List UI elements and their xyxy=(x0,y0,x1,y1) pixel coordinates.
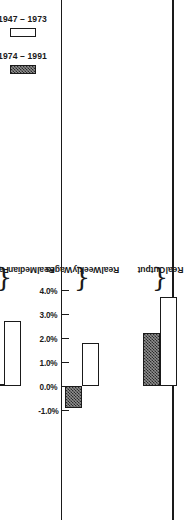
hatched-swatch-icon xyxy=(10,65,36,74)
axis-tick-label: 2.0% xyxy=(34,335,64,344)
category-label-line: Real xyxy=(38,265,56,274)
hollow-swatch-icon xyxy=(10,28,36,37)
legend-label: 1947 – 1973 xyxy=(0,14,47,24)
category-label-line: Median xyxy=(9,265,38,274)
plot-area: 4.0%3.0%2.0%1.0%0.0%-1.0% RealOutput{Rea… xyxy=(55,0,195,520)
bar xyxy=(4,321,21,386)
legend-label: 1974 – 1991 xyxy=(0,51,47,61)
bar-chart-figure: 4.0%3.0%2.0%1.0%0.0%-1.0% RealOutput{Rea… xyxy=(0,0,195,520)
category-label-line: Real xyxy=(101,265,119,274)
axis-tick-label: 4.0% xyxy=(34,287,64,296)
bar xyxy=(82,343,99,386)
legend-item-1974-1991: 1974 – 1991 xyxy=(0,51,47,74)
legend-item-1947-1973: 1947 – 1973 xyxy=(0,14,47,37)
category-label: RealWeeklyWages{ xyxy=(62,0,102,284)
bar xyxy=(0,384,4,386)
axis-tick-label: 3.0% xyxy=(34,311,64,320)
axis-tick-label: 0.0% xyxy=(34,383,64,392)
bar xyxy=(65,386,82,408)
bar xyxy=(143,333,160,386)
category-label: RealOutput{ xyxy=(140,0,180,284)
bar xyxy=(160,297,177,386)
axis-tick-label: -1.0% xyxy=(34,407,64,416)
chart-legend: 1947 – 1973 1974 – 1991 xyxy=(0,14,47,74)
axis-tick-label: 1.0% xyxy=(34,359,64,368)
